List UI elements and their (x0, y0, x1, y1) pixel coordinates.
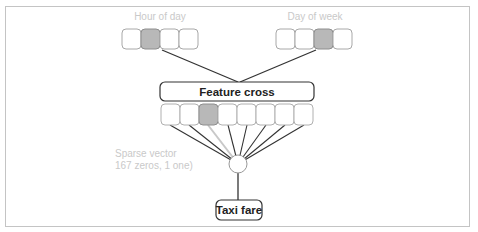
neuron-node (229, 155, 247, 173)
day-of-week-vector (276, 29, 352, 49)
cell-active (199, 104, 218, 125)
connector-day (240, 50, 316, 82)
cell-active (141, 29, 160, 49)
cell (161, 104, 180, 125)
cell (294, 104, 313, 125)
cell (333, 29, 352, 49)
feature-cross-label: Feature cross (199, 86, 274, 98)
cell (160, 29, 179, 49)
cell (179, 29, 198, 49)
cell (256, 104, 275, 125)
cell (122, 29, 141, 49)
taxi-fare-label: Taxi fare (216, 204, 262, 216)
sparse-vector-label-line1: Sparse vector (115, 148, 177, 159)
hour-of-day-label: Hour of day (134, 11, 186, 22)
cell (237, 104, 256, 125)
hour-of-day-vector (122, 29, 198, 49)
diagram-canvas: Hour of day Day of week Feature cross (0, 0, 478, 232)
feature-cross-vector (161, 104, 313, 125)
cell (218, 104, 237, 125)
connector-hour (162, 50, 238, 82)
sparse-vector-label-line2: 167 zeros, 1 one) (115, 160, 193, 171)
cell (276, 29, 295, 49)
cell (180, 104, 199, 125)
cell-active (314, 29, 333, 49)
day-of-week-label: Day of week (287, 11, 343, 22)
cell (275, 104, 294, 125)
cell (295, 29, 314, 49)
